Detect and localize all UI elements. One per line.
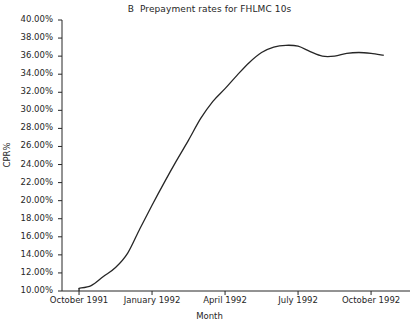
y-axis-ticks <box>58 20 62 291</box>
y-axis-tick-label: 34.00% <box>1 68 53 78</box>
y-axis-tick-label: 40.00% <box>1 14 53 24</box>
x-axis-tick-label: October 1992 <box>326 295 416 305</box>
plot-area <box>0 0 419 329</box>
y-axis-tick-label: 30.00% <box>1 104 53 114</box>
y-axis-tick-label: 36.00% <box>1 50 53 60</box>
y-axis-tick-label: 20.00% <box>1 195 53 205</box>
axes-group <box>58 20 410 295</box>
y-axis-label: CPR% <box>2 135 12 175</box>
data-line-0 <box>79 45 383 288</box>
y-axis-tick-label: 16.00% <box>1 231 53 241</box>
y-axis-tick-label: 10.00% <box>1 285 53 295</box>
y-axis-tick-label: 18.00% <box>1 213 53 223</box>
y-axis-tick-label: 14.00% <box>1 249 53 259</box>
y-axis-tick-label: 38.00% <box>1 32 53 42</box>
x-axis-label: Month <box>0 311 419 321</box>
data-series-group <box>79 45 383 291</box>
y-axis-tick-label: 32.00% <box>1 86 53 96</box>
y-axis-tick-label: 12.00% <box>1 267 53 277</box>
chart-figure: B Prepayment rates for FHLMC 10s 40.00%3… <box>0 0 419 329</box>
y-axis-tick-label: 28.00% <box>1 122 53 132</box>
y-axis-tick-label: 22.00% <box>1 177 53 187</box>
